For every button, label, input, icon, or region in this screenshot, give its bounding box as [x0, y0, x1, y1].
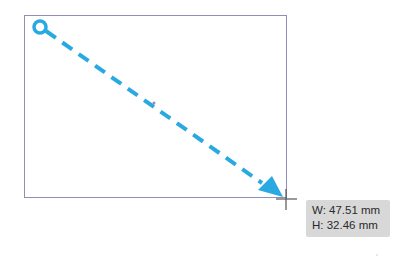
center-point-icon — [153, 102, 156, 105]
width-readout: W: 47.51 mm — [312, 203, 384, 218]
stray-dot — [376, 254, 378, 256]
dimension-tooltip: W: 47.51 mm H: 32.46 mm — [306, 200, 390, 237]
circle-handle-icon[interactable] — [34, 21, 46, 33]
height-readout: H: 32.46 mm — [312, 218, 384, 233]
arrowhead-icon — [258, 176, 283, 197]
drawing-canvas[interactable]: W: 47.51 mm H: 32.46 mm — [0, 0, 418, 258]
drag-path-line — [46, 31, 262, 183]
